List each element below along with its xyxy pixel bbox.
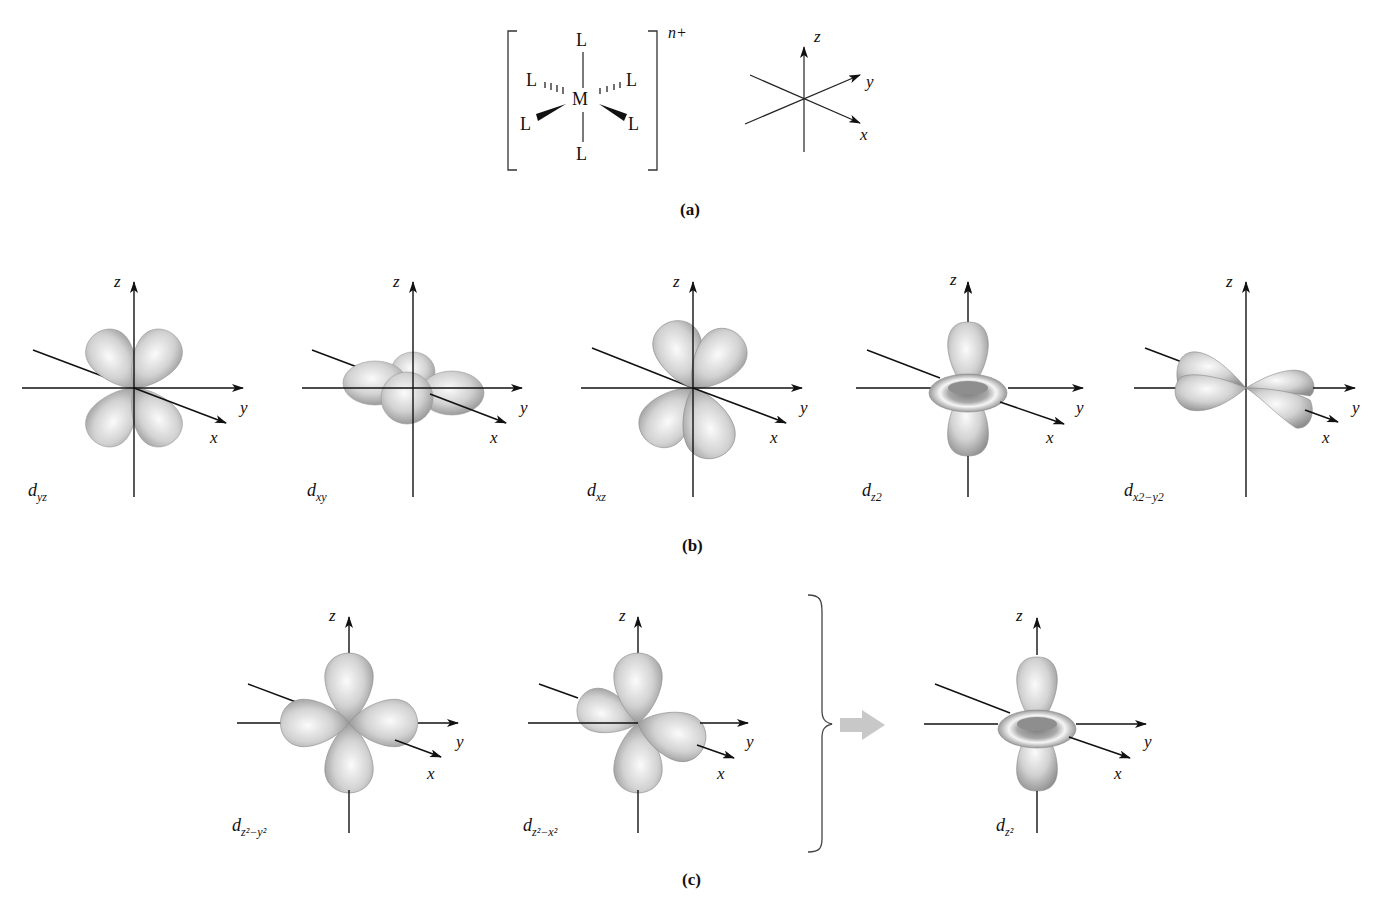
axis-label-y: y xyxy=(1144,732,1152,752)
wedge-bond-left xyxy=(536,104,566,121)
orbital-label-dz2-result: dz² xyxy=(996,815,1013,840)
axis-label-z: z xyxy=(619,606,626,626)
metal-center: M xyxy=(572,89,588,110)
axis-label-z: z xyxy=(950,270,957,290)
orbital-label-dxy: dxy xyxy=(307,480,327,505)
ligand-front-right: L xyxy=(628,114,639,135)
axis-label-y: y xyxy=(746,732,754,752)
orbital-dyz xyxy=(22,282,243,497)
orbital-dxz xyxy=(581,282,802,497)
axis-label-z: z xyxy=(114,272,121,292)
axis-label-y: y xyxy=(1352,398,1360,418)
axis-label-z: z xyxy=(1016,606,1023,626)
wedge-bond-right xyxy=(599,104,627,121)
axis-label-z: z xyxy=(329,606,336,626)
orbital-dx2-y2 xyxy=(1134,282,1355,497)
orbital-dxy xyxy=(302,282,522,497)
axis-label-z: z xyxy=(1226,272,1233,292)
ligand-front-left: L xyxy=(520,114,531,135)
axis-label-x: x xyxy=(770,428,778,448)
orbital-dz2 xyxy=(856,282,1083,497)
orbital-label-dx2-y2: dx2−y2 xyxy=(1124,480,1164,505)
axis-label-x: x xyxy=(1046,428,1054,448)
caption-b: (b) xyxy=(682,536,703,556)
axis-label-y: y xyxy=(520,398,528,418)
axis-label-y: y xyxy=(456,732,464,752)
axis-label-z: z xyxy=(393,272,400,292)
ligand-back-right: L xyxy=(626,70,637,91)
left-bracket xyxy=(508,31,517,170)
orbital-dz2-result xyxy=(924,618,1146,833)
axis-label-x: x xyxy=(427,764,435,784)
axis-label-z: z xyxy=(814,27,821,47)
charge-label: n+ xyxy=(668,24,687,42)
panel-a xyxy=(508,31,860,170)
ligand-bottom: L xyxy=(576,144,587,165)
orbital-label-dz2-x2: dz²−x² xyxy=(523,815,557,840)
axis-label-y: y xyxy=(240,398,248,418)
axis-label-x: x xyxy=(1322,428,1330,448)
orbital-dz2-x2 xyxy=(528,617,748,833)
axis-label-x: x xyxy=(717,764,725,784)
right-bracket xyxy=(648,31,657,170)
axis-label-y: y xyxy=(1076,398,1084,418)
ligand-top: L xyxy=(576,30,587,51)
axis-label-x: x xyxy=(1114,764,1122,784)
curly-brace xyxy=(808,595,832,852)
y-axis xyxy=(745,75,860,124)
orbital-label-dyz: dyz xyxy=(28,480,47,505)
orbital-label-dz2: dz2 xyxy=(862,480,882,505)
orbital-diagram xyxy=(0,0,1390,899)
axis-label-y: y xyxy=(800,398,808,418)
axis-label-y: y xyxy=(866,72,874,92)
axis-label-x: x xyxy=(490,428,498,448)
orbital-label-dxz: dxz xyxy=(587,480,606,505)
hashed-bond-right xyxy=(600,82,620,94)
ligand-back-left: L xyxy=(526,70,537,91)
orbital-dz2-y2 xyxy=(237,617,458,833)
axis-label-x: x xyxy=(860,125,868,145)
axis-label-z: z xyxy=(673,272,680,292)
hashed-bond-left xyxy=(545,82,563,94)
caption-c: (c) xyxy=(682,870,701,890)
result-arrow-icon xyxy=(840,710,885,740)
axis-label-x: x xyxy=(210,428,218,448)
caption-a: (a) xyxy=(680,200,700,220)
orbital-label-dz2-y2: dz²−y² xyxy=(232,815,266,840)
